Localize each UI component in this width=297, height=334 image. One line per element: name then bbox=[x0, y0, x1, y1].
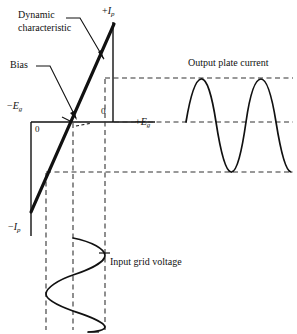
input-grid-voltage-waveform bbox=[46, 238, 105, 332]
axis-label-plus-eg: +Eg bbox=[135, 116, 150, 129]
operating-point-dash-a bbox=[62, 117, 70, 121]
origin-zero-right: 0 bbox=[101, 106, 106, 116]
figure-canvas: Dynamic characteristic Bias +Ip −Eg +Eg … bbox=[0, 0, 297, 334]
dynamic-characteristic-leader bbox=[66, 18, 104, 59]
axis-label-plus-ip-sub: p bbox=[111, 10, 115, 18]
diagram-svg bbox=[0, 0, 297, 334]
guide-lines-group bbox=[46, 78, 293, 330]
dynamic-characteristic-label-line1: Dynamic bbox=[18, 9, 71, 22]
dynamic-characteristic-label-line2: characteristic bbox=[18, 22, 71, 35]
axis-label-minus-eg: −Eg bbox=[7, 100, 22, 113]
dynamic-characteristic-label: Dynamic characteristic bbox=[18, 9, 71, 34]
axis-label-minus-ip: −Ip bbox=[8, 221, 20, 234]
axis-label-plus-ip: +Ip bbox=[102, 5, 114, 18]
operating-point-dash-b bbox=[76, 123, 92, 126]
axis-label-plus-eg-sub: g bbox=[147, 121, 151, 129]
output-plate-current-label: Output plate current bbox=[188, 57, 269, 68]
input-waveform-endcaps bbox=[88, 253, 110, 332]
bias-leader bbox=[36, 66, 76, 118]
axis-label-minus-ip-sub: p bbox=[17, 226, 21, 234]
origin-zero-left: 0 bbox=[35, 124, 40, 134]
axis-label-minus-eg-sub: g bbox=[19, 105, 23, 113]
input-grid-voltage-label: Input grid voltage bbox=[110, 256, 182, 267]
output-plate-current-waveform bbox=[186, 79, 291, 172]
bias-label: Bias bbox=[10, 59, 28, 70]
